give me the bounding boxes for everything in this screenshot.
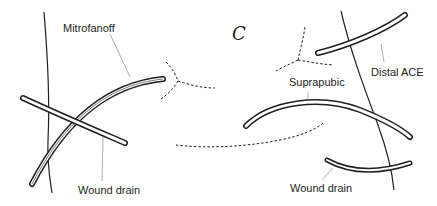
suprapubic-tube xyxy=(246,102,410,137)
label-mitrofanoff: Mitrofanoff xyxy=(63,22,115,34)
panel-letter: C xyxy=(232,23,246,44)
left-wound-drain-tube xyxy=(23,98,125,143)
left-dashed-y xyxy=(161,62,215,99)
label-distal-ace: Distal ACE xyxy=(371,66,424,78)
leader-mitrofanoff xyxy=(110,34,130,77)
label-suprapubic: Suprapubic xyxy=(289,76,345,88)
leader-wound-drain-left xyxy=(102,137,103,181)
leader-wound-drain-right xyxy=(322,168,333,180)
right-wound-drain-tube xyxy=(327,160,410,170)
distal-ace-tube xyxy=(318,15,405,53)
catheter-placement-diagram: C Mitrofanoff Wound drain Distal ACE Sup… xyxy=(0,0,437,206)
label-wound-drain-right: Wound drain xyxy=(290,182,352,194)
label-wound-drain-left: Wound drain xyxy=(78,184,140,196)
leader-distal-ace xyxy=(381,44,384,62)
